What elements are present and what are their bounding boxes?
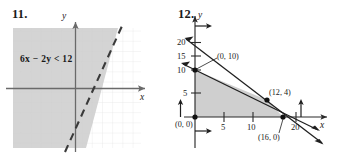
vertex-point-12-4 (264, 97, 269, 102)
x-axis-label-11: x (140, 92, 144, 102)
constraint-line-a-arrow-start-12 (185, 37, 194, 42)
constraint-line-b-arrow-end-12 (311, 126, 320, 132)
worksheet-page: 11. (0, 0, 337, 160)
y-tick-label-15: 15 (177, 51, 186, 61)
constraint-arrow-right-lower-12 (195, 128, 212, 133)
x-tick-label-20: 20 (291, 122, 300, 132)
vertex-label-0-0: (0, 0) (175, 120, 193, 129)
figure-12: 12. (170, 0, 337, 160)
constraint-arrow-up-left-12 (178, 99, 183, 117)
vertex-point-16-0 (280, 114, 285, 119)
vertex-label-16-0: (16, 0) (258, 133, 280, 142)
constraint-arrow-right-upper-12 (195, 23, 212, 28)
figure-11: 11. (0, 0, 170, 160)
x-axis-label-12: x (320, 120, 324, 130)
vertex-point-0-10 (192, 67, 197, 72)
vertex-point-0-0 (192, 114, 197, 119)
x-tick-label-5: 5 (221, 122, 225, 132)
inequality-label-11: 6x − 2y < 12 (20, 54, 72, 64)
figure-11-graph (0, 0, 170, 160)
constraint-line-a-arrow-end-12 (315, 139, 324, 145)
y-tick-label-10: 10 (177, 65, 186, 75)
figure-12-graph (170, 0, 337, 160)
x-tick-label-10: 10 (247, 122, 256, 132)
leader-line-0-10 (197, 58, 218, 69)
vertex-label-0-10: (0, 10) (217, 52, 239, 61)
constraint-arrow-up-right-12 (298, 99, 303, 117)
vertex-label-12-4: (12, 4) (269, 88, 291, 97)
y-tick-label-20: 20 (177, 37, 186, 47)
leader-line-16-0 (279, 119, 283, 133)
y-axis-label-12: y (198, 10, 202, 20)
y-axis-label-11: y (62, 11, 66, 21)
y-tick-label-5: 5 (183, 88, 187, 98)
